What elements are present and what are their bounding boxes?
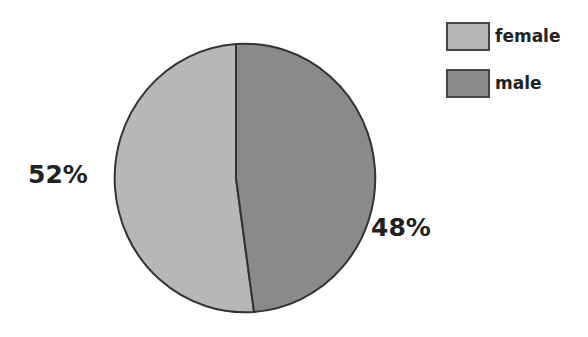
legend-swatch-male bbox=[446, 69, 490, 98]
pie-slice-female bbox=[115, 44, 254, 312]
legend-label-male: male bbox=[495, 73, 542, 93]
legend-label-female: female bbox=[495, 26, 560, 46]
pie-slice-male bbox=[236, 44, 375, 312]
legend-item-female: female bbox=[446, 24, 560, 48]
female-percent-label: 52% bbox=[28, 160, 88, 189]
male-percent-label: 48% bbox=[371, 213, 431, 242]
legend: female male bbox=[446, 24, 560, 118]
legend-item-male: male bbox=[446, 71, 560, 95]
legend-swatch-female bbox=[446, 22, 490, 51]
